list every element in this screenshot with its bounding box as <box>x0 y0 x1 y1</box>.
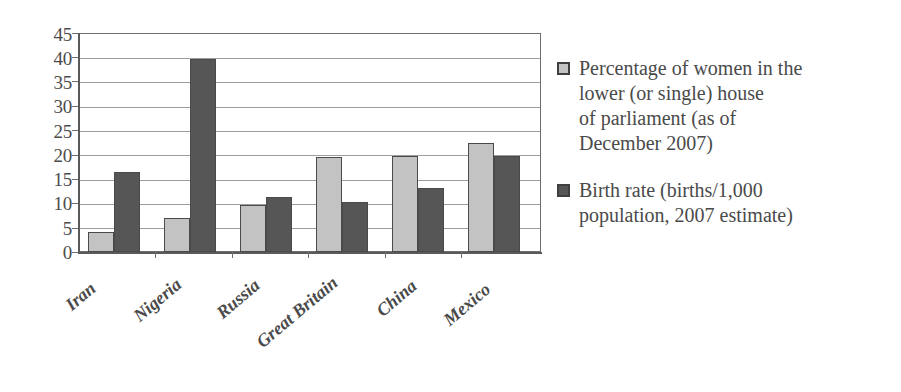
x-tick-label-iran: Iran <box>62 279 100 315</box>
y-axis-line <box>78 33 80 253</box>
legend-label-birth-rate: Birth rate (births/1,000 population, 200… <box>579 178 793 228</box>
bar-great-britain-women <box>316 157 342 252</box>
x-tick-label-russia: Russia <box>213 276 264 323</box>
legend-line: December 2007) <box>579 132 713 154</box>
y-tick-label: 15 <box>34 170 72 189</box>
bars-layer <box>79 34 540 252</box>
x-tick-label-mexico: Mexico <box>440 280 494 330</box>
chart-legend: Percentage of women in the lower (or sin… <box>557 56 897 250</box>
y-tick-label: 25 <box>34 122 72 141</box>
x-tick-mark <box>461 252 462 258</box>
x-tick-mark <box>308 252 309 258</box>
bar-iran-birth <box>114 172 140 252</box>
bar-chart-figure: 45 40 35 30 25 20 15 10 5 0 <box>0 0 901 392</box>
bar-great-britain-birth <box>342 202 368 252</box>
x-tick-label-great-britain: Great Britain <box>253 273 341 352</box>
legend-entry-birth-rate: Birth rate (births/1,000 population, 200… <box>557 178 897 228</box>
x-tick-mark <box>385 252 386 258</box>
dark-gray-square-icon <box>557 184 570 197</box>
x-tick-mark <box>232 252 233 258</box>
x-tick-mark <box>155 252 156 258</box>
y-tick-label: 20 <box>34 146 72 165</box>
legend-line: Birth rate (births/1,000 <box>579 179 763 201</box>
y-tick-label: 30 <box>34 97 72 116</box>
x-tick-label-nigeria: Nigeria <box>130 275 185 326</box>
x-axis-line <box>78 252 542 254</box>
x-tick-label-china: China <box>373 276 420 320</box>
bar-china-women <box>392 156 418 252</box>
legend-label-women-parliament: Percentage of women in the lower (or sin… <box>579 56 802 156</box>
y-tick-label: 45 <box>34 25 72 44</box>
bar-mexico-women <box>468 143 494 252</box>
y-tick-label: 10 <box>34 194 72 213</box>
legend-line: of parliament (as of <box>579 107 736 129</box>
bar-nigeria-birth <box>190 59 216 252</box>
bar-russia-women <box>240 205 266 253</box>
bar-nigeria-women <box>164 218 190 252</box>
legend-line: lower (or single) house <box>579 82 764 104</box>
bar-mexico-birth <box>494 156 520 252</box>
y-tick-label: 35 <box>34 73 72 92</box>
legend-line: Percentage of women in the <box>579 57 802 79</box>
legend-entry-women-parliament: Percentage of women in the lower (or sin… <box>557 56 897 156</box>
light-gray-square-icon <box>557 62 570 75</box>
y-tick-label: 0 <box>34 243 72 262</box>
bar-iran-women <box>88 232 114 252</box>
bar-russia-birth <box>266 197 292 252</box>
chart-plot-area: 45 40 35 30 25 20 15 10 5 0 <box>0 0 560 392</box>
y-tick-label: 5 <box>34 219 72 238</box>
y-tick-label: 40 <box>34 49 72 68</box>
legend-line: population, 2007 estimate) <box>579 204 793 226</box>
bar-china-birth <box>418 188 444 252</box>
